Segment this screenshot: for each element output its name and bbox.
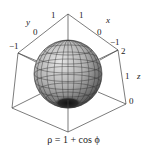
surface	[34, 40, 102, 109]
y-tick-neg1: −1	[9, 42, 19, 51]
x-tick-neg1: −1	[110, 38, 120, 47]
z-tick-1: 1	[125, 72, 130, 81]
y-tick-0: 0	[33, 28, 38, 37]
x-axis-label: x	[106, 16, 110, 25]
y-axis-label: y	[26, 18, 30, 27]
equation-caption: ρ = 1 + cos ϕ	[0, 134, 147, 145]
y-tick-1: 1	[51, 11, 56, 20]
z-tick-2: 2	[121, 47, 126, 56]
z-tick-0: 0	[129, 97, 134, 106]
x-tick-1: 1	[79, 11, 84, 20]
z-axis-label: z	[137, 72, 141, 81]
x-tick-0: 0	[97, 28, 102, 37]
